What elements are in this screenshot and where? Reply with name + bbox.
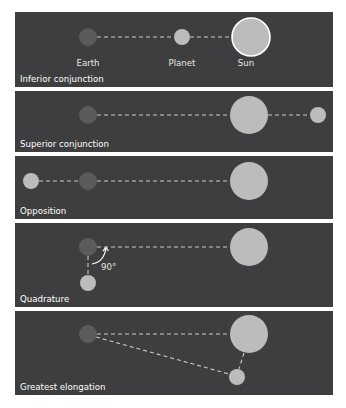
angle-label: 90° <box>101 262 116 272</box>
panel-title: Greatest elongation <box>20 382 105 392</box>
planet-circle <box>174 29 190 45</box>
panel-opposition: Opposition <box>15 156 333 219</box>
earth-circle <box>79 106 97 124</box>
panel-inferior-conjunction: Earth Planet Sun Inferior conjunction <box>15 12 333 87</box>
panel-quadrature: 90° Quadrature <box>15 223 333 307</box>
panel-greatest-elongation: Greatest elongation <box>15 311 333 395</box>
sun-circle <box>232 18 270 56</box>
earth-circle <box>79 28 97 46</box>
sun-label: Sun <box>238 58 254 68</box>
planet-circle <box>80 275 96 291</box>
sun-circle <box>230 96 268 134</box>
panel-title: Superior conjunction <box>20 139 109 149</box>
planet-circle <box>23 173 39 189</box>
planet-circle <box>310 107 326 123</box>
earth-circle <box>79 172 97 190</box>
planet-label: Planet <box>169 58 197 68</box>
earth-circle <box>79 238 97 256</box>
sun-circle <box>230 228 268 266</box>
panel-title: Inferior conjunction <box>20 74 104 84</box>
planetary-configurations-diagram: Earth Planet Sun Inferior conjunction Su… <box>0 0 346 408</box>
sun-circle <box>230 162 268 200</box>
earth-label: Earth <box>76 58 99 68</box>
earth-circle <box>79 325 97 343</box>
sun-circle <box>230 315 268 353</box>
panel-title: Opposition <box>20 206 66 216</box>
panel-title: Quadrature <box>20 294 69 304</box>
panel-superior-conjunction: Superior conjunction <box>15 91 333 152</box>
planet-circle <box>229 369 245 385</box>
